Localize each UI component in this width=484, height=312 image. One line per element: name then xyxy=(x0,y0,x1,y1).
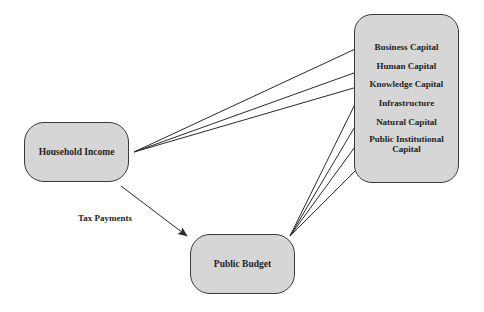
natural-capital-label: Natural Capital xyxy=(355,117,458,127)
arrow-budget-knowledge xyxy=(290,90,362,236)
tax-payments-label: Tax Payments xyxy=(78,213,132,223)
public-institutional-capital-label: Public Institutional Capital xyxy=(355,134,458,154)
infrastructure-label: Infrastructure xyxy=(355,98,458,108)
public-budget-node: Public Budget xyxy=(190,234,295,294)
capitals-node: Business Capital Human Capital Knowledge… xyxy=(354,14,459,183)
arrow-household-knowledge xyxy=(134,85,364,152)
arrow-household-business xyxy=(134,44,366,152)
human-capital-label: Human Capital xyxy=(355,61,458,71)
arrow-household-human xyxy=(134,69,365,152)
household-income-node: Household Income xyxy=(24,122,129,182)
public-budget-label: Public Budget xyxy=(214,259,271,269)
business-capital-label: Business Capital xyxy=(355,42,458,52)
arrow-tax-payments xyxy=(121,186,187,236)
knowledge-capital-label: Knowledge Capital xyxy=(355,79,458,89)
household-income-label: Household Income xyxy=(39,147,115,157)
